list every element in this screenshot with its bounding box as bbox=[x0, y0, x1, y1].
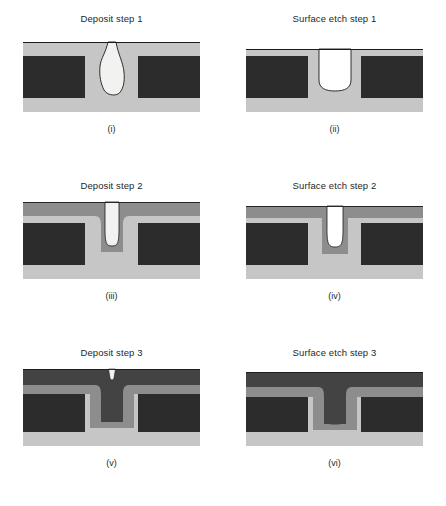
panel-title-ii: Surface etch step 1 bbox=[293, 14, 377, 25]
cross-section-diagram-vi bbox=[245, 366, 424, 447]
panel-title-i: Deposit step 1 bbox=[80, 14, 142, 25]
process-flow-figure: Deposit step 1 (i)Surface etch step 1 (i… bbox=[0, 0, 446, 506]
panel-v: Deposit step 3 (v) bbox=[0, 334, 223, 502]
cross-section-diagram-iv bbox=[245, 199, 424, 280]
panel-title-v: Deposit step 3 bbox=[80, 348, 142, 359]
panel-ii: Surface etch step 1 (ii) bbox=[223, 0, 446, 168]
panel-caption-vi: (vi) bbox=[328, 459, 341, 468]
cross-section-diagram-iii bbox=[22, 199, 201, 280]
panel-caption-iii: (iii) bbox=[106, 292, 118, 301]
panel-vi: Surface etch step 3 (vi) bbox=[223, 334, 446, 502]
panel-iii: Deposit step 2 (iii) bbox=[0, 167, 223, 335]
panel-caption-ii: (ii) bbox=[330, 125, 340, 134]
cross-section-diagram-i bbox=[22, 32, 201, 113]
panel-caption-i: (i) bbox=[108, 125, 116, 134]
panel-caption-iv: (iv) bbox=[328, 292, 341, 301]
cross-section-diagram-v bbox=[22, 366, 201, 447]
panel-title-iii: Deposit step 2 bbox=[80, 181, 142, 192]
panel-caption-v: (v) bbox=[106, 459, 117, 468]
cross-section-diagram-ii bbox=[245, 32, 424, 113]
panel-title-iv: Surface etch step 2 bbox=[293, 181, 377, 192]
panel-title-vi: Surface etch step 3 bbox=[293, 348, 377, 359]
panel-iv: Surface etch step 2 (iv) bbox=[223, 167, 446, 335]
panel-i: Deposit step 1 (i) bbox=[0, 0, 223, 168]
